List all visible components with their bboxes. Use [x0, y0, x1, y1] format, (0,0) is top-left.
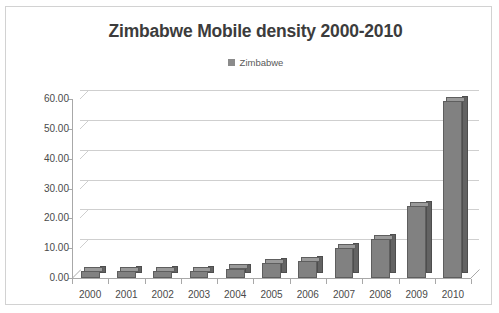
y-axis-label: 40.00	[21, 153, 69, 164]
bar	[153, 265, 172, 278]
bar	[81, 265, 100, 278]
floor-right-edge	[470, 269, 480, 279]
x-axis-tick	[290, 279, 291, 284]
bar-top-face	[410, 202, 429, 207]
bar-top-face	[338, 244, 357, 249]
legend-swatch-icon	[228, 59, 235, 66]
bar	[262, 257, 281, 278]
bar-side-face	[426, 201, 432, 273]
chart-legend: Zimbabwe	[6, 57, 499, 68]
bar-front-face	[371, 239, 390, 278]
x-axis-label: 2008	[360, 289, 400, 300]
x-axis-label: 2005	[252, 289, 292, 300]
legend-label: Zimbabwe	[240, 57, 284, 68]
x-axis-tick	[435, 279, 436, 284]
bar-front-face	[190, 271, 209, 279]
bar-top-face	[301, 257, 320, 262]
bar	[190, 265, 209, 278]
bar-top-face	[446, 97, 465, 102]
plot-area: 0.0010.0020.0030.0040.0050.0060.00 20002…	[72, 90, 479, 277]
x-axis-labels: 2000200120022003200420052006200720082009…	[72, 289, 471, 305]
x-axis-tick	[362, 279, 363, 284]
bar-top-face	[193, 267, 212, 272]
bar	[335, 242, 354, 278]
bar	[443, 95, 462, 279]
y-axis-label: 30.00	[21, 183, 69, 194]
x-axis-label: 2000	[70, 289, 110, 300]
bar	[298, 255, 317, 278]
x-axis-tick	[108, 279, 109, 284]
bar-top-face	[120, 267, 139, 272]
x-axis-tick	[326, 279, 327, 284]
x-axis-label: 2009	[397, 289, 437, 300]
bar-top-face	[265, 259, 284, 264]
bar	[371, 233, 390, 278]
bar-front-face	[298, 261, 317, 278]
y-axis-label: 50.00	[21, 123, 69, 134]
bar-front-face	[262, 263, 281, 278]
x-axis-label: 2007	[324, 289, 364, 300]
bar-front-face	[153, 271, 172, 278]
x-axis-tick	[253, 279, 254, 284]
x-axis-label: 2006	[288, 289, 328, 300]
x-axis-tick	[399, 279, 400, 284]
bar-front-face	[226, 269, 245, 279]
x-axis-ticks	[72, 279, 471, 285]
x-axis-label: 2003	[179, 289, 219, 300]
y-axis-label: 0.00	[21, 272, 69, 283]
y-axis-label: 60.00	[21, 93, 69, 104]
x-axis-tick	[181, 279, 182, 284]
x-axis-tick	[145, 279, 146, 284]
chart-title: Zimbabwe Mobile density 2000-2010	[6, 21, 499, 42]
x-axis-label: 2001	[106, 289, 146, 300]
x-axis-label: 2010	[433, 289, 473, 300]
x-axis-tick	[471, 279, 472, 284]
y-axis-label: 20.00	[21, 212, 69, 223]
bar-front-face	[407, 206, 426, 278]
x-axis-tick	[217, 279, 218, 284]
x-axis-tick	[72, 279, 73, 284]
bar	[117, 265, 136, 278]
bar-side-face	[462, 96, 468, 274]
bar-top-face	[156, 267, 175, 272]
bar	[226, 262, 245, 278]
y-axis-label: 10.00	[21, 242, 69, 253]
bar-front-face	[335, 248, 354, 278]
x-axis-label: 2002	[143, 289, 183, 300]
bar-top-face	[229, 264, 248, 269]
bar-front-face	[443, 101, 462, 279]
bar-top-face	[374, 235, 393, 240]
bar-top-face	[84, 267, 103, 272]
x-axis-label: 2004	[215, 289, 255, 300]
bar-series-zimbabwe	[72, 90, 471, 279]
bar-front-face	[117, 271, 136, 278]
bar	[407, 200, 426, 278]
chart-frame: Zimbabwe Mobile density 2000-2010 Zimbab…	[5, 6, 492, 305]
